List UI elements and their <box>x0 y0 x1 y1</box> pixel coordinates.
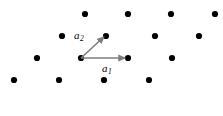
lattice-point <box>34 55 40 61</box>
lattice-point <box>125 55 131 61</box>
vector-arrow-a2 <box>81 37 104 58</box>
lattice-point <box>125 11 131 17</box>
vector-label-a1-subscript: 1 <box>108 67 112 76</box>
vector-label-a2-subscript: 2 <box>80 34 84 43</box>
vector-label-a2: a2 <box>74 30 83 41</box>
lattice-vectors <box>81 37 125 58</box>
lattice-canvas <box>0 0 223 116</box>
lattice-figure: a2 a1 <box>0 0 223 116</box>
lattice-points <box>11 11 218 83</box>
lattice-point <box>146 77 152 83</box>
lattice-point <box>169 55 175 61</box>
lattice-point <box>152 33 158 39</box>
lattice-point <box>56 77 62 83</box>
lattice-point <box>212 11 218 17</box>
lattice-point <box>168 11 174 17</box>
vector-label-a2-base: a <box>74 29 80 41</box>
vector-label-a1: a1 <box>102 63 111 74</box>
lattice-point <box>196 33 202 39</box>
vector-label-a1-base: a <box>102 62 108 74</box>
lattice-point <box>101 77 107 83</box>
lattice-point <box>59 33 65 39</box>
lattice-point <box>103 33 109 39</box>
lattice-point <box>82 11 88 17</box>
lattice-point <box>11 77 17 83</box>
